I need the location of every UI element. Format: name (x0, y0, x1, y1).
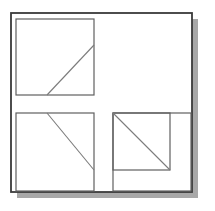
geometric-diagram (0, 0, 215, 211)
figure-canvas (0, 0, 215, 211)
